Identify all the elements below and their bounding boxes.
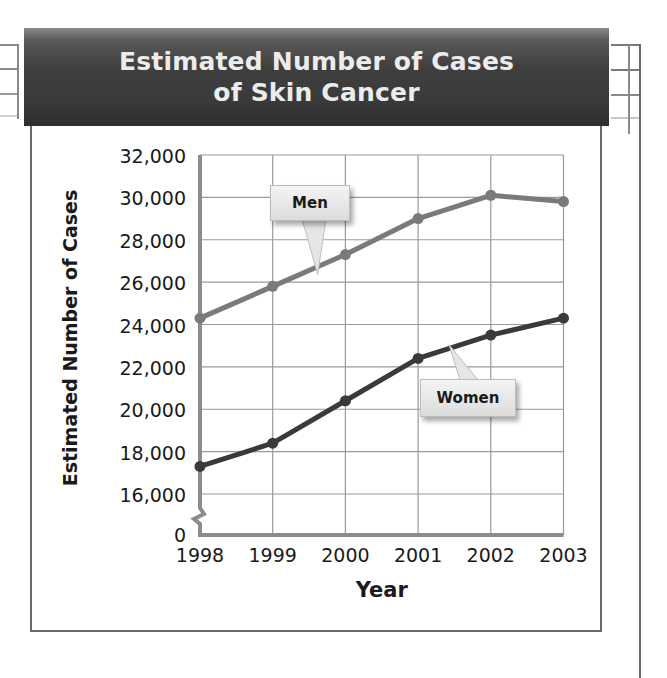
series-line-men	[200, 195, 564, 318]
women-label: Women	[437, 389, 500, 407]
data-point-men	[340, 249, 351, 260]
x-tick-label: 1999	[249, 544, 297, 566]
y-tick-label-zero: 0	[174, 524, 186, 546]
data-point-men	[413, 213, 424, 224]
x-tick-label: 2002	[467, 544, 515, 566]
axis-with-break	[194, 155, 564, 535]
men-label: Men	[292, 194, 328, 212]
data-point-men	[485, 190, 496, 201]
line-chart: 16,00018,00020,00022,00024,00026,00028,0…	[0, 0, 667, 678]
x-tick-label: 1998	[176, 544, 224, 566]
y-tick-label: 30,000	[120, 187, 186, 209]
y-tick-label: 20,000	[120, 399, 186, 421]
data-point-men	[267, 281, 278, 292]
data-point-women	[558, 313, 569, 324]
y-tick-label: 24,000	[120, 315, 186, 337]
women-callout-label: Women	[420, 379, 516, 417]
data-point-women	[195, 461, 206, 472]
data-point-men	[558, 196, 569, 207]
data-point-women	[485, 330, 496, 341]
x-tick-label: 2003	[539, 544, 587, 566]
y-tick-label: 28,000	[120, 230, 186, 252]
y-tick-label: 18,000	[120, 442, 186, 464]
x-axis-title: Year	[355, 578, 409, 602]
data-point-women	[267, 438, 278, 449]
x-tick-label: 2001	[394, 544, 442, 566]
x-tick-label: 2000	[321, 544, 369, 566]
y-tick-label: 32,000	[120, 145, 186, 167]
data-point-women	[340, 395, 351, 406]
y-tick-label: 26,000	[120, 272, 186, 294]
y-tick-label: 22,000	[120, 357, 186, 379]
women-callout-pointer	[449, 345, 478, 380]
y-tick-label: 16,000	[120, 484, 186, 506]
data-point-men	[195, 313, 206, 324]
data-point-women	[413, 353, 424, 364]
men-callout-label: Men	[270, 185, 350, 221]
